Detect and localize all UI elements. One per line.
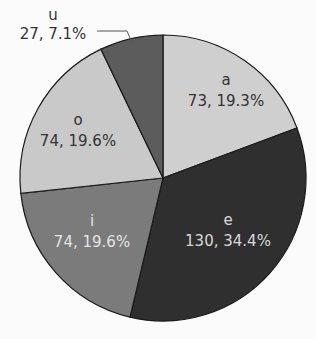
slice-label-i-name: i [90,212,94,230]
slice-label-e-value: 130, 34.4% [185,232,271,250]
pie-chart: a 73, 19.3% e 130, 34.4% i 74, 19.6% o 7… [0,0,316,339]
slice-label-u-name: u [48,6,58,24]
slice-label-o-value: 74, 19.6% [40,132,116,150]
slice-label-u-value: 27, 7.1% [20,25,87,43]
slice-label-a-value: 73, 19.3% [188,92,264,110]
slice-label-a-name: a [221,71,230,89]
slice-label-e-name: e [223,211,232,229]
slice-label-i-value: 74, 19.6% [54,233,130,251]
slice-label-o-name: o [73,111,82,129]
